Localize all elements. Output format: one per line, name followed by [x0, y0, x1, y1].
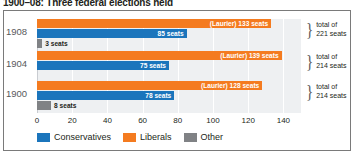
chart-figure: 1900–08: Three federal elections held (L…	[0, 0, 355, 154]
bar-group-1900: (Laurier) 128 seats78 seats8 seats	[37, 81, 301, 110]
legend-item-conservatives[interactable]: Conservatives	[37, 132, 111, 142]
legend-label: Liberals	[140, 132, 172, 142]
bar-value-label: (Laurier) 133 seats	[210, 20, 268, 27]
total-annotation-1900: }total of214 seats	[305, 83, 346, 101]
brace-icon: }	[306, 54, 313, 69]
bar-value-label: 75 seats	[140, 62, 166, 69]
bar-group-1908: (Laurier) 133 seats85 seats3 seats	[37, 19, 301, 48]
x-tick-100: 100	[206, 116, 219, 125]
legend-item-liberals[interactable]: Liberals	[123, 132, 172, 142]
legend-swatch-icon	[123, 133, 136, 142]
total-text-line2: 214 seats	[316, 62, 346, 71]
year-label-1904: 1904	[6, 58, 34, 69]
x-tick-80: 80	[173, 116, 182, 125]
bar-value-label: (Laurier) 128 seats	[201, 82, 259, 89]
brace-icon: }	[306, 22, 313, 37]
x-tick-20: 20	[68, 116, 77, 125]
total-text-line2: 214 seats	[316, 92, 346, 101]
legend-label: Other	[201, 132, 224, 142]
bar-1908-liberals[interactable]: (Laurier) 133 seats	[37, 19, 271, 28]
bar-1904-liberals[interactable]: (Laurier) 139 seats	[37, 51, 282, 60]
total-text-line1: total of	[316, 83, 346, 92]
year-label-1900: 1900	[6, 88, 34, 99]
bar-1908-conservatives[interactable]: 85 seats	[37, 29, 187, 38]
bar-group-1904: (Laurier) 139 seats75 seats	[37, 51, 301, 80]
bar-value-label: 8 seats	[54, 102, 76, 109]
x-axis: 020406080100120140	[37, 114, 301, 128]
x-tick-0: 0	[35, 116, 39, 125]
total-text: total of214 seats	[316, 83, 346, 101]
total-annotation-1904: }total of214 seats	[305, 53, 346, 71]
total-annotation-1908: }total of221 seats	[305, 21, 346, 39]
x-tick-120: 120	[242, 116, 255, 125]
bar-1908-other[interactable]: 3 seats	[37, 39, 42, 48]
bar-1900-conservatives[interactable]: 78 seats	[37, 91, 174, 100]
bar-value-label: 85 seats	[158, 30, 184, 37]
legend-label: Conservatives	[54, 132, 111, 142]
bar-value-label: (Laurier) 139 seats	[220, 52, 278, 59]
plot-area: (Laurier) 133 seats85 seats3 seats(Lauri…	[37, 19, 301, 113]
bar-value-label: 3 seats	[45, 40, 67, 47]
x-tick-60: 60	[138, 116, 147, 125]
year-label-1908: 1908	[6, 26, 34, 37]
total-text: total of221 seats	[316, 21, 346, 39]
page-title: 1900–08: Three federal elections held	[3, 0, 173, 8]
x-tick-40: 40	[103, 116, 112, 125]
bar-1904-conservatives[interactable]: 75 seats	[37, 61, 169, 70]
brace-icon: }	[306, 84, 313, 99]
legend-item-other[interactable]: Other	[184, 132, 224, 142]
legend-swatch-icon	[184, 133, 197, 142]
total-text-line2: 221 seats	[316, 30, 346, 39]
bar-1900-liberals[interactable]: (Laurier) 128 seats	[37, 81, 262, 90]
chart-legend: ConservativesLiberalsOther	[37, 132, 223, 142]
total-text-line1: total of	[316, 53, 346, 62]
bar-value-label: 78 seats	[145, 92, 171, 99]
bar-1900-other[interactable]: 8 seats	[37, 101, 51, 110]
total-text: total of214 seats	[316, 53, 346, 71]
x-tick-140: 140	[277, 116, 290, 125]
legend-swatch-icon	[37, 133, 50, 142]
total-text-line1: total of	[316, 21, 346, 30]
